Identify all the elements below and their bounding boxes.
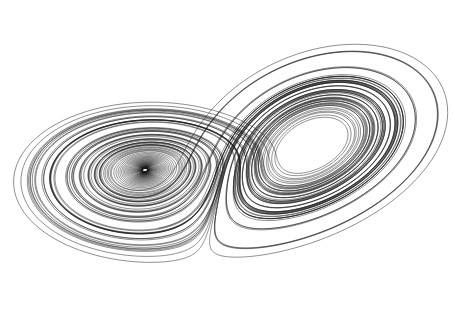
lorenz-attractor-plot [0,0,455,323]
lorenz-attractor-figure: Lorenz attractor [0,0,455,323]
